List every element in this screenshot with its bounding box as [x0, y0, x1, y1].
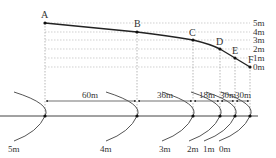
point-F [248, 65, 251, 68]
contour-labels: 5m 4m 3m 2m 1m 0m [8, 144, 231, 154]
axis-point-C [191, 114, 194, 117]
height-labels: 5m 4m 3m 2m 1m 0m [253, 18, 265, 72]
point-labels: A B C D E F [41, 9, 254, 65]
axis-point-F [248, 114, 251, 117]
label-C: C [189, 27, 196, 38]
label-A: A [41, 9, 49, 20]
point-A [43, 21, 46, 24]
point-C [191, 38, 194, 41]
point-B [135, 30, 138, 33]
label-E: E [232, 45, 238, 56]
elevation-profile-diagram: A B C D E F 5m 4m 3m 2m 1m 0m 60m 36m 18… [0, 0, 276, 158]
label-B: B [134, 18, 141, 29]
contour-label-3m: 3m [159, 144, 171, 154]
distance-AB: 60m [82, 90, 98, 100]
axis-point-D [218, 114, 221, 117]
height-label-0m: 0m [253, 62, 265, 72]
distance-labels: 60m 36m 18m 30m 30m [82, 90, 251, 100]
contour-label-0m: 0m [219, 144, 231, 154]
axis-point-E [233, 114, 236, 117]
contour-label-2m: 2m [187, 144, 199, 154]
axis-point-B [135, 114, 138, 117]
point-E [233, 56, 236, 59]
point-D [218, 47, 221, 50]
axis-point-A [43, 114, 46, 117]
label-D: D [216, 36, 223, 47]
contour-label-5m: 5m [8, 144, 20, 154]
contour-label-1m: 1m [203, 144, 215, 154]
contour-label-4m: 4m [100, 144, 112, 154]
